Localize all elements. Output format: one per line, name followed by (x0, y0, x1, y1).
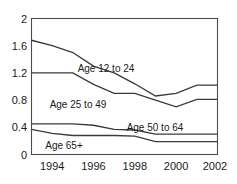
y-tick-label: 1.2 (12, 67, 27, 79)
line-chart: 2 1.6 1.2 0.8 0.4 0 1994 1996 1998 2000 … (0, 0, 237, 184)
y-tick-label: 2 (21, 13, 27, 25)
y-tick-label: 0.4 (12, 121, 27, 133)
x-tick-label: 1998 (123, 160, 147, 172)
y-tick-label: 0 (21, 149, 27, 161)
y-tick-label: 0.8 (12, 94, 27, 106)
x-tick-label: 2000 (164, 160, 188, 172)
chart-canvas: 2 1.6 1.2 0.8 0.4 0 1994 1996 1998 2000 … (0, 0, 237, 184)
x-tick-label: 1994 (40, 160, 64, 172)
series-label-age-25-to-49: Age 25 to 49 (50, 99, 107, 110)
series-label-age-12-to-24: Age 12 to 24 (78, 63, 135, 74)
chart-background (0, 0, 237, 184)
x-tick-label: 1996 (81, 160, 105, 172)
series-label-age-50-to-64: Age 50 to 64 (127, 122, 184, 133)
series-label-age-65-plus: Age 65+ (45, 140, 83, 151)
x-tick-label: 2002 (203, 160, 227, 172)
y-tick-label: 1.6 (12, 40, 27, 52)
